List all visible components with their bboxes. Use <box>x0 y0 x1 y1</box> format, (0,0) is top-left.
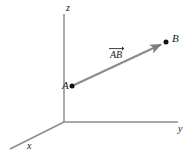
point-b-dot <box>164 40 169 45</box>
point-label-a: A <box>62 80 69 91</box>
vector-label-ab: AB <box>110 49 122 60</box>
point-a-dot <box>70 84 75 89</box>
overarrow-icon <box>109 46 124 51</box>
vector-label-overbar-wrapper: AB <box>110 49 122 60</box>
axis-label-y: y <box>178 124 182 134</box>
vector-diagram-figure: z y x A B AB <box>0 0 195 157</box>
axis-label-x: x <box>27 141 31 151</box>
axis-label-z: z <box>66 3 70 13</box>
axis-x <box>10 122 64 149</box>
coordinate-system-canvas <box>0 0 195 157</box>
point-label-b: B <box>172 33 179 44</box>
